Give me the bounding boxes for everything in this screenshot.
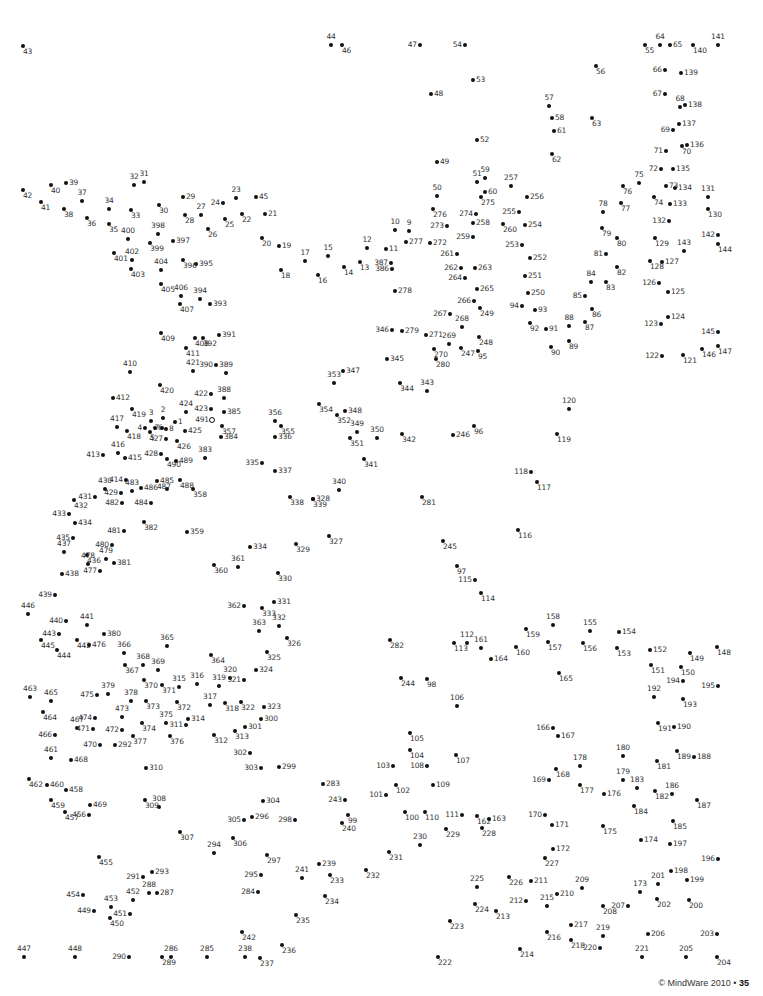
dot-label: 390 — [199, 361, 213, 369]
dot-label: 249 — [480, 310, 494, 318]
dot-label: 143 — [677, 239, 691, 247]
dot-label: 489 — [179, 457, 193, 465]
dot-label: 3 — [149, 409, 154, 417]
dot-label: 256 — [530, 193, 544, 201]
dot-label: 374 — [142, 725, 156, 733]
dot-label: 104 — [410, 752, 424, 760]
dot-310 — [144, 766, 148, 770]
dot-label: 481 — [107, 527, 121, 535]
dot-label: 293 — [155, 868, 169, 876]
dot-label: 233 — [330, 877, 344, 885]
dot-291 — [141, 875, 145, 879]
dot-label: 243 — [328, 796, 342, 804]
dot-label: 39 — [69, 179, 78, 187]
dot-415 — [123, 456, 127, 460]
dot-label: 307 — [180, 834, 194, 842]
dot-366 — [122, 651, 126, 655]
dot-label: 237 — [260, 960, 274, 968]
dot-label: 58 — [555, 114, 564, 122]
dot-label: 2 — [161, 406, 166, 414]
dot-label: 430 — [98, 477, 112, 485]
dot-label: 9 — [407, 219, 412, 227]
dot-437 — [62, 550, 66, 554]
dot-250 — [526, 291, 530, 295]
dot-287 — [155, 891, 159, 895]
dot-145 — [716, 330, 720, 334]
dot-178 — [578, 764, 582, 768]
dot-label: 280 — [436, 361, 450, 369]
dot-label: 94 — [510, 302, 519, 310]
dot-label: 190 — [677, 723, 691, 731]
dot-label: 367 — [125, 667, 139, 675]
dot-106 — [455, 704, 459, 708]
dot-label: 121 — [683, 357, 697, 365]
dot-394 — [198, 297, 202, 301]
dot-345 — [385, 357, 389, 361]
dot-label: 188 — [697, 753, 711, 761]
dot-268 — [460, 325, 464, 329]
dot-label: 388 — [217, 386, 231, 394]
dot-label: 229 — [446, 831, 460, 839]
dot-433 — [67, 512, 71, 516]
dot-label: 339 — [313, 501, 327, 509]
dot-483 — [130, 489, 134, 493]
dot-454 — [81, 893, 85, 897]
dot-label: 199 — [690, 876, 704, 884]
dot-label: 341 — [364, 461, 378, 469]
dot-447 — [22, 955, 26, 959]
dot-label: 40 — [51, 187, 60, 195]
dot-label: 453 — [104, 895, 118, 903]
dot-label: 340 — [332, 478, 346, 486]
dot-103 — [391, 764, 395, 768]
dot-label: 463 — [23, 685, 37, 693]
dot-473 — [120, 715, 124, 719]
dot-375 — [164, 721, 168, 725]
dot-label: 460 — [50, 781, 64, 789]
dot-label: 286 — [164, 945, 178, 953]
dot-385 — [222, 410, 226, 414]
dot-label: 437 — [57, 540, 71, 548]
dot-131 — [706, 195, 710, 199]
dot-label: 82 — [617, 269, 626, 277]
dot-137 — [677, 122, 681, 126]
dot-230 — [418, 843, 422, 847]
dot-183 — [635, 786, 639, 790]
dot-label: 366 — [117, 641, 131, 649]
dot-label: 212 — [509, 897, 523, 905]
dot-4 — [143, 426, 147, 430]
dot-label: 426 — [177, 443, 191, 451]
dot-273 — [445, 224, 449, 228]
dot-label: 377 — [133, 738, 147, 746]
dot-label: 41 — [41, 204, 50, 212]
dot-391 — [217, 333, 221, 337]
dot-label: 345 — [390, 355, 404, 363]
dot-label: 391 — [222, 331, 236, 339]
dot-label: 372 — [177, 704, 191, 712]
dot-58 — [550, 116, 554, 120]
dot-label: 421 — [186, 359, 200, 367]
dot-label: 53 — [476, 76, 485, 84]
dot-173 — [638, 890, 642, 894]
dot-45 — [254, 195, 258, 199]
dot-8 — [164, 427, 168, 431]
dot-203 — [715, 932, 719, 936]
dot-label: 195 — [701, 682, 715, 690]
dot-label: 312 — [214, 737, 228, 745]
dot-417 — [115, 425, 119, 429]
dot-label: 213 — [496, 913, 510, 921]
dot-349 — [355, 430, 359, 434]
dot-label: 351 — [350, 440, 364, 448]
dot-label: 173 — [633, 880, 647, 888]
dot-label: 96 — [474, 428, 483, 436]
dot-423 — [209, 407, 213, 411]
dot-397 — [171, 239, 175, 243]
dot-label: 450 — [110, 920, 124, 928]
dot-label: 433 — [52, 510, 66, 518]
dot-label: 150 — [681, 669, 695, 677]
dot-label: 161 — [474, 636, 488, 644]
dot-163 — [487, 817, 491, 821]
dot-label: 156 — [583, 645, 597, 653]
dot-label: 137 — [682, 120, 696, 128]
dot-label: 389 — [219, 361, 233, 369]
dot-label: 192 — [647, 685, 661, 693]
